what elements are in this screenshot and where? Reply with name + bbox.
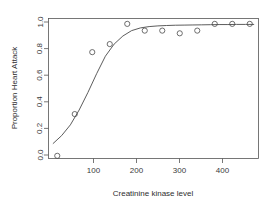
x-tick-label-3: 400 — [216, 166, 230, 175]
y-tick-label-5: 1.0 — [36, 16, 45, 28]
x-tick-label-1: 200 — [130, 166, 144, 175]
y-tick-label-3: 0.6 — [36, 69, 45, 81]
y-axis-title: Proportion Heart Attack — [10, 46, 19, 130]
y-tick-label-2: 0.4 — [36, 96, 45, 108]
chart-container: 0.0 0.2 0.4 0.6 0.8 1.0 — [0, 0, 279, 210]
y-tick-label-0: 0.0 — [36, 149, 45, 161]
y-tick-label-4: 0.8 — [36, 42, 45, 54]
scatter-plot-svg: 0.0 0.2 0.4 0.6 0.8 1.0 — [0, 0, 279, 210]
x-tick-label-2: 300 — [173, 166, 187, 175]
x-axis-title: Creatinine kinase level — [113, 189, 194, 198]
x-tick-label-0: 100 — [87, 166, 101, 175]
y-tick-label-1: 0.2 — [36, 122, 45, 134]
